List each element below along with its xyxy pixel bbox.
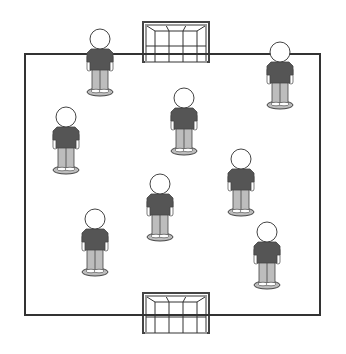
player-figure	[171, 88, 197, 155]
player-figure	[254, 222, 280, 289]
player-figure	[53, 107, 79, 174]
player-figure	[87, 29, 113, 96]
player-figure	[267, 42, 293, 109]
player-figure	[228, 149, 254, 216]
player-figure	[82, 209, 108, 276]
top-goal	[141, 22, 211, 62]
bottom-goal	[141, 293, 211, 333]
player-figure	[147, 174, 173, 241]
soccer-field-diagram	[0, 0, 346, 354]
